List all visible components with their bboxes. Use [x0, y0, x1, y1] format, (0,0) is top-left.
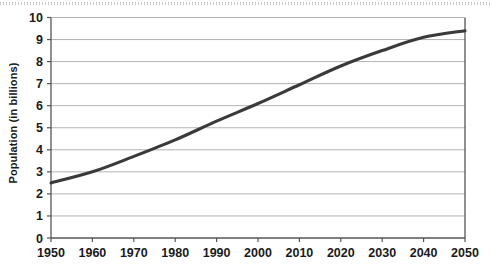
y-tick-label: 7 [36, 77, 43, 91]
x-tick-label: 1980 [161, 246, 189, 260]
x-tick-group: 1950196019701980199020002010202020302040… [37, 238, 479, 260]
x-tick-label: 1970 [120, 246, 148, 260]
y-tick-label: 2 [36, 187, 43, 201]
y-tick-label: 9 [36, 33, 43, 47]
y-tick-label: 8 [36, 55, 43, 69]
population-series-line [51, 31, 465, 183]
y-tick-label: 6 [36, 99, 43, 113]
gridline-group [51, 18, 465, 216]
y-tick-label: 10 [29, 11, 43, 25]
x-tick-label: 2040 [410, 246, 438, 260]
x-tick-label: 2050 [451, 246, 479, 260]
x-tick-label: 2000 [244, 246, 272, 260]
x-tick-label: 2030 [368, 246, 396, 260]
population-line-chart: Population (in billions) 012345678910 19… [0, 0, 492, 275]
x-tick-label: 2020 [327, 246, 355, 260]
y-tick-label: 1 [36, 209, 43, 223]
chart-plot-area: 012345678910 195019601970198019902000201… [0, 0, 492, 275]
x-tick-label: 1990 [203, 246, 231, 260]
y-tick-label: 5 [36, 121, 43, 135]
x-tick-label: 1960 [78, 246, 106, 260]
y-tick-label: 4 [36, 143, 43, 157]
y-tick-label: 0 [36, 232, 43, 246]
x-tick-label: 1950 [37, 246, 65, 260]
y-tick-group: 012345678910 [29, 11, 51, 246]
x-tick-label: 2010 [285, 246, 313, 260]
y-tick-label: 3 [36, 165, 43, 179]
